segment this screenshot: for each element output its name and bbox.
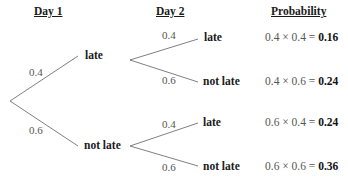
result-expression: 0.4 × 0.6 =: [265, 75, 318, 87]
result-expression: 0.4 × 0.4 =: [265, 31, 318, 43]
prob-day1-late: 0.4: [29, 66, 43, 78]
result-notlate-not-late: 0.6 × 0.6 = 0.36: [265, 160, 338, 172]
result-expression: 0.6 × 0.4 =: [265, 116, 318, 128]
heading-day-2: Day 2: [156, 5, 184, 17]
node-notlate-late: late: [203, 116, 221, 128]
node-late-late: late: [204, 31, 222, 43]
prob-late-not-late: 0.6: [162, 74, 176, 86]
heading-day-1: Day 1: [34, 5, 62, 17]
branch-day1-late: [10, 56, 78, 101]
node-day1-not-late: not late: [84, 139, 121, 151]
node-notlate-not-late: not late: [203, 160, 240, 172]
result-value: 0.24: [318, 75, 338, 87]
result-value: 0.36: [318, 160, 338, 172]
tree-branches: [0, 0, 348, 177]
result-value: 0.16: [318, 31, 338, 43]
branch-day1-not-late: [10, 101, 78, 146]
prob-late-late: 0.4: [162, 29, 176, 41]
node-late-not-late: not late: [203, 75, 240, 87]
node-day1-late: late: [85, 49, 103, 61]
result-notlate-late: 0.6 × 0.4 = 0.24: [265, 116, 338, 128]
prob-notlate-late: 0.4: [162, 118, 176, 130]
heading-probability: Probability: [271, 5, 326, 17]
prob-day1-not-late: 0.6: [29, 124, 43, 136]
prob-notlate-not-late: 0.6: [162, 161, 176, 173]
result-late-late: 0.4 × 0.4 = 0.16: [265, 31, 338, 43]
result-expression: 0.6 × 0.6 =: [265, 160, 318, 172]
branch-late-late: [130, 39, 198, 60]
result-value: 0.24: [318, 116, 338, 128]
result-late-not-late: 0.4 × 0.6 = 0.24: [265, 75, 338, 87]
